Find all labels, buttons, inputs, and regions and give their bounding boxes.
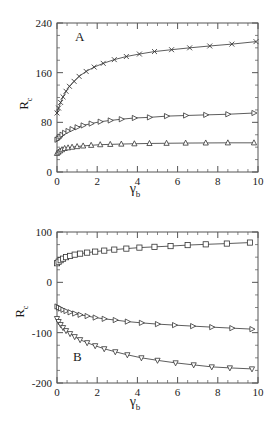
panel-a-x-axis-label-sub: b	[136, 189, 141, 199]
x-tick-label: 8	[215, 386, 221, 398]
panel-a: 0246810080160240 Rc γb A	[0, 0, 274, 211]
x-tick-label: 6	[175, 175, 181, 187]
x-tick-label: 0	[54, 386, 60, 398]
x-tick-label: 10	[253, 175, 265, 187]
x-tick-label: 10	[253, 386, 265, 398]
y-tick-label: 80	[41, 116, 53, 128]
series-right-triangle-series	[55, 110, 257, 142]
x-tick-label: 8	[215, 175, 221, 187]
y-tick-label: 160	[36, 67, 53, 79]
series-cross-series	[55, 39, 259, 115]
y-tick-label: 100	[36, 226, 53, 238]
y-tick-label: -200	[32, 377, 53, 389]
panel-b-x-axis-label: γb	[115, 394, 155, 412]
panel-b: 0246810-200-1000100 Rc γb B	[0, 206, 274, 422]
panel-a-y-axis-label-sub: c	[25, 98, 34, 102]
panel-a-plot: 0246810080160240	[0, 0, 274, 211]
panel-b-y-axis-label: Rc	[12, 284, 30, 318]
y-tick-label: 0	[47, 276, 53, 288]
panel-a-tag: A	[75, 29, 84, 45]
y-tick-label: 240	[36, 17, 53, 29]
y-tick-label: 0	[47, 166, 53, 178]
panel-a-y-axis-label: Rc	[16, 76, 34, 110]
panel-b-y-axis-label-sub: c	[21, 306, 30, 310]
panel-b-x-axis-label-sub: b	[136, 402, 141, 412]
x-tick-label: 2	[94, 386, 100, 398]
series-up-triangle-series	[54, 140, 256, 156]
y-tick-label: -100	[32, 327, 53, 339]
panel-b-y-axis-label-text: R	[12, 309, 27, 318]
panel-a-x-axis-label: γb	[115, 181, 155, 199]
x-tick-label: 0	[54, 175, 60, 187]
panel-b-tag: B	[73, 349, 82, 365]
series-square-series	[54, 240, 252, 266]
panel-b-plot: 0246810-200-1000100	[0, 206, 274, 422]
x-tick-label: 6	[175, 386, 181, 398]
panel-a-y-axis-label-text: R	[16, 101, 31, 110]
series-down-triangle-series	[54, 316, 254, 371]
x-tick-label: 2	[94, 175, 100, 187]
figure-container: 0246810080160240 Rc γb A 0246810-200-100…	[0, 0, 274, 422]
series-right-triangle-series	[55, 304, 255, 332]
